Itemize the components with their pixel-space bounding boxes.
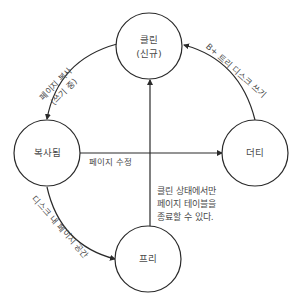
node-free-label: 프리: [139, 253, 157, 264]
node-free: 프리: [115, 226, 181, 292]
node-copied: 복사됨: [14, 120, 80, 186]
edge-label-dirty-to-clean: B+ 트리 디스크 쓰기: [204, 41, 268, 100]
note-line-2: 페이지 테이블을: [157, 199, 216, 209]
node-clean-label-1: 클린: [140, 34, 158, 45]
node-dirty: 더티: [222, 120, 288, 186]
node-copied-label: 복사됨: [34, 147, 61, 158]
node-clean-label-2: (신규): [136, 48, 161, 59]
note: 클린 상태에서만 페이지 테이블을 종료할 수 있다.: [157, 186, 216, 222]
node-dirty-label: 더티: [246, 147, 264, 158]
edge-label-copied-to-dirty: 페이지 수정: [89, 157, 132, 167]
note-line-3: 종료할 수 있다.: [157, 211, 214, 222]
node-clean: 클린 (신규): [116, 13, 182, 79]
edge-label-copied-to-free: 디스크 내 페이지 공간: [30, 194, 91, 260]
state-diagram: 클린 (신규) 복사됨 더티 프리 페이지 복사 (쓰기 중) B+ 트리 디스…: [0, 0, 298, 301]
note-line-1: 클린 상태에서만: [157, 186, 216, 196]
